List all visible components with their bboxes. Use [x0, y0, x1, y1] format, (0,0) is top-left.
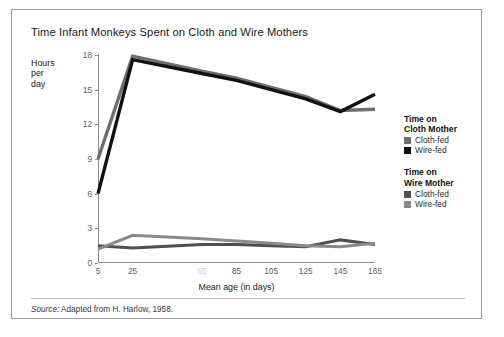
legend-group-title-line-2: Wire Mother: [404, 178, 486, 188]
legend-item-label: Cloth-fed: [415, 136, 449, 145]
y-tick-label: 15: [83, 85, 92, 95]
legend-swatch-icon: [404, 137, 411, 144]
legend-group-title-line-1: Time on: [404, 167, 486, 177]
source-label: Source:: [31, 305, 59, 314]
y-axis-caption-line-2: per: [31, 68, 55, 78]
y-tick-mark: [95, 263, 98, 264]
y-tick-label: 3: [87, 223, 92, 233]
source-text: Adapted from H. Harlow, 1958.: [59, 305, 173, 314]
legend-group-title: Time onCloth Mother: [404, 114, 486, 134]
y-tick-label: 18: [83, 50, 92, 60]
series-line: [98, 60, 375, 194]
y-tick-label: 12: [83, 119, 92, 129]
chart-title: Time Infant Monkeys Spent on Cloth and W…: [31, 26, 308, 38]
source-note: Source: Adapted from H. Harlow, 1958.: [31, 305, 173, 314]
x-tick-label: 145: [333, 266, 347, 276]
legend-swatch-icon: [404, 147, 411, 154]
x-tick-label: 65: [197, 266, 206, 276]
legend-group-title-line-2: Cloth Mother: [404, 124, 486, 134]
footer-divider: [31, 298, 465, 299]
x-tick-label: 85: [232, 266, 241, 276]
y-tick-label: 0: [87, 258, 92, 268]
legend-item[interactable]: Wire-fed: [404, 200, 486, 209]
legend-group-title: Time onWire Mother: [404, 167, 486, 187]
x-tick-label: 25: [128, 266, 137, 276]
chart-legend: Time onCloth MotherCloth-fedWire-fedTime…: [404, 114, 486, 221]
legend-item-label: Wire-fed: [415, 200, 447, 209]
legend-item-label: Cloth-fed: [415, 190, 449, 199]
y-axis-caption-line-3: day: [31, 79, 55, 89]
legend-item-label: Wire-fed: [415, 146, 447, 155]
x-tick-label: 165: [368, 266, 382, 276]
legend-group: Time onWire MotherCloth-fedWire-fed: [404, 167, 486, 208]
y-tick-label: 9: [87, 154, 92, 164]
x-tick-label: 125: [299, 266, 313, 276]
x-tick-label: 105: [264, 266, 278, 276]
x-tick-label: 5: [96, 266, 101, 276]
figure-panel: Time Infant Monkeys Spent on Cloth and W…: [11, 9, 482, 319]
legend-swatch-icon: [404, 201, 411, 208]
legend-swatch-icon: [404, 191, 411, 198]
y-axis-caption-line-1: Hours: [31, 58, 55, 68]
plot-area: 0369121518 5256585105125145165: [98, 54, 375, 263]
legend-group: Time onCloth MotherCloth-fedWire-fed: [404, 114, 486, 155]
series-layer: [98, 54, 375, 263]
y-tick-label: 6: [87, 189, 92, 199]
x-axis-caption: Mean age (in days): [98, 282, 375, 292]
legend-item[interactable]: Cloth-fed: [404, 136, 486, 145]
legend-group-title-line-1: Time on: [404, 114, 486, 124]
legend-item[interactable]: Cloth-fed: [404, 190, 486, 199]
y-axis-caption: Hours per day: [31, 58, 55, 89]
legend-item[interactable]: Wire-fed: [404, 146, 486, 155]
